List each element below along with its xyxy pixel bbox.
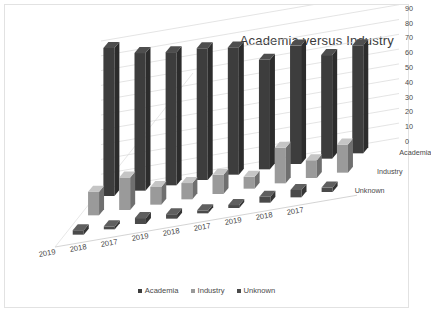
- y-axis-tick-label: 60: [405, 48, 413, 57]
- bar-unknown-2019-3: [166, 208, 182, 218]
- bar-industry-2019-6: [275, 142, 291, 184]
- bar-academia-2017-5: [259, 54, 275, 170]
- bar-unknown-2017-8: [322, 182, 338, 192]
- legend-item-industry[interactable]: Industry: [191, 286, 225, 295]
- bar-industry-2018-1: [119, 171, 135, 210]
- bar-industry-2018-7: [306, 154, 322, 178]
- legend-label: Academia: [145, 286, 179, 295]
- legend-label: Industry: [198, 286, 225, 295]
- bar-industry-2017-8: [337, 139, 353, 173]
- bar-industry-2019-3: [181, 177, 197, 199]
- legend-swatch-icon: [138, 289, 142, 293]
- chart-container: Academia versus Industry AcademiaIndustr…: [4, 4, 409, 308]
- bar-unknown-2017-5: [228, 199, 244, 208]
- bar-industry-2017-2: [150, 181, 166, 205]
- legend-label: Unknown: [244, 286, 276, 295]
- bar-unknown-2018-4: [197, 204, 213, 213]
- bar-academia-2019-3: [197, 42, 213, 180]
- y-axis-tick-label: 0: [405, 137, 409, 146]
- bar-academia-2018-1: [135, 47, 151, 191]
- y-axis-tick-label: 70: [405, 33, 413, 42]
- chart-legend: AcademiaIndustryUnknown: [5, 286, 408, 295]
- bar-unknown-2017-2: [135, 212, 151, 224]
- depth-axis-label-unknown: Unknown: [355, 186, 385, 195]
- y-axis-tick-label: 80: [405, 19, 413, 28]
- y-axis-tick-label: 50: [405, 63, 413, 72]
- bar-academia-2019-6: [290, 40, 306, 164]
- bar-academia-2018-7: [321, 49, 337, 159]
- y-axis-tick-label: 40: [405, 78, 413, 87]
- bar-industry-2018-4: [213, 169, 229, 194]
- chart-plot-area: [5, 5, 410, 309]
- bar-academia-2017-8: [352, 39, 368, 153]
- legend-item-academia[interactable]: Academia: [138, 286, 179, 295]
- bar-unknown-2018-7: [291, 184, 307, 197]
- figure-caption: [11, 295, 416, 307]
- legend-swatch-icon: [237, 289, 241, 293]
- y-axis-tick-label: 20: [405, 107, 413, 116]
- bar-unknown-2019-0: [73, 224, 89, 234]
- y-axis-tick-label: 90: [405, 4, 413, 13]
- bar-academia-2019-0: [103, 42, 119, 196]
- y-axis-tick-label: 10: [405, 122, 413, 131]
- bar-unknown-2019-6: [259, 191, 275, 203]
- bar-academia-2018-4: [228, 41, 244, 174]
- bar-academia-2017-2: [166, 46, 182, 185]
- y-axis-tick-label: 30: [405, 93, 413, 102]
- legend-swatch-icon: [191, 289, 195, 293]
- bar-industry-2017-5: [244, 171, 260, 189]
- depth-axis-label-industry: Industry: [377, 167, 403, 176]
- bar-industry-2019-0: [88, 186, 104, 216]
- bar-unknown-2018-1: [104, 220, 120, 229]
- legend-item-unknown[interactable]: Unknown: [237, 286, 276, 295]
- depth-axis-label-academia: Academia: [399, 148, 431, 157]
